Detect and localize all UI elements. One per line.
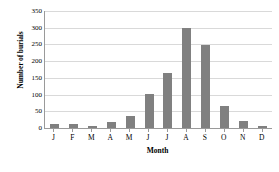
y-tick-label: 250	[32, 41, 43, 48]
bar-slot	[159, 11, 178, 128]
y-tick-label: 100	[32, 91, 43, 98]
x-tick-slot: J	[158, 129, 177, 143]
x-tick-label: N	[233, 133, 252, 143]
x-tick-mark	[186, 129, 187, 132]
y-tick-label: 200	[32, 58, 43, 65]
x-tick-mark	[110, 129, 111, 132]
x-tick-mark	[53, 129, 54, 132]
y-axis-tick-labels: 050100150200250300350	[22, 11, 42, 128]
x-tick-label: M	[82, 133, 101, 143]
bar	[220, 106, 229, 128]
x-tick-label: J	[158, 133, 177, 143]
bar	[88, 126, 97, 128]
bar	[126, 116, 135, 128]
x-tick-slot: J	[44, 129, 63, 143]
x-tick-mark	[148, 129, 149, 132]
bar	[182, 28, 191, 128]
y-tick-label: 350	[32, 8, 43, 15]
x-tick-mark	[224, 129, 225, 132]
x-tick-label: O	[214, 133, 233, 143]
x-tick-label: A	[101, 133, 120, 143]
y-tick-label: 300	[32, 24, 43, 31]
bar-slot	[102, 11, 121, 128]
x-tick-slot: D	[252, 129, 271, 143]
x-tick-mark	[262, 129, 263, 132]
x-tick-mark	[167, 129, 168, 132]
x-tick-label: M	[120, 133, 139, 143]
bar	[50, 124, 59, 128]
bar-slot	[140, 11, 159, 128]
x-tick-slot: F	[63, 129, 82, 143]
bar	[258, 126, 267, 128]
x-tick-mark	[91, 129, 92, 132]
x-tick-slot: M	[120, 129, 139, 143]
y-tick-label: 150	[32, 74, 43, 81]
x-tick-mark	[205, 129, 206, 132]
y-tick-label: 50	[35, 108, 42, 115]
x-tick-label: A	[176, 133, 195, 143]
bar	[69, 124, 78, 128]
x-tick-slot: M	[82, 129, 101, 143]
x-tick-label: J	[44, 133, 63, 143]
bar-slot	[215, 11, 234, 128]
bar	[145, 94, 154, 128]
x-tick-slot: N	[233, 129, 252, 143]
bar	[201, 45, 210, 128]
y-tick-label: 0	[39, 125, 43, 132]
x-tick-mark	[129, 129, 130, 132]
bar-series	[45, 11, 272, 128]
x-tick-slot: A	[101, 129, 120, 143]
bar	[107, 122, 116, 128]
bar-chart: Number of burials 050100150200250300350 …	[0, 0, 279, 172]
bar	[239, 121, 248, 128]
plot-area	[44, 11, 272, 129]
bar-slot	[121, 11, 140, 128]
bar	[163, 73, 172, 128]
bar-slot	[253, 11, 272, 128]
x-axis-tick-labels: JFMAMJJASOND	[44, 129, 271, 143]
x-tick-label: J	[139, 133, 158, 143]
x-tick-label: F	[63, 133, 82, 143]
bar-slot	[177, 11, 196, 128]
x-tick-mark	[243, 129, 244, 132]
x-tick-label: S	[195, 133, 214, 143]
bar-slot	[196, 11, 215, 128]
bar-slot	[234, 11, 253, 128]
x-tick-mark	[72, 129, 73, 132]
x-tick-slot: A	[176, 129, 195, 143]
x-tick-slot: S	[195, 129, 214, 143]
x-tick-label: D	[252, 133, 271, 143]
bar-slot	[83, 11, 102, 128]
x-tick-slot: J	[139, 129, 158, 143]
x-axis-title: Month	[44, 146, 271, 155]
bar-slot	[45, 11, 64, 128]
x-tick-slot: O	[214, 129, 233, 143]
bar-slot	[64, 11, 83, 128]
